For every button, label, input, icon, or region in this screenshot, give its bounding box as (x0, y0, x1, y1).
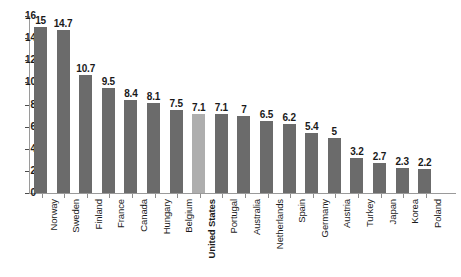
x-axis-label: Germany (318, 199, 331, 277)
x-tick-mark (268, 194, 269, 198)
bar-group[interactable]: 5.4 (301, 16, 323, 193)
bar-group[interactable]: 9.5 (98, 16, 120, 193)
bar[interactable] (192, 114, 205, 193)
x-axis-label: Finland (92, 199, 105, 277)
bar[interactable] (373, 163, 386, 193)
bar[interactable] (57, 30, 70, 193)
x-axis-label: Belgium (182, 199, 195, 277)
bar-group[interactable]: 7 (233, 16, 255, 193)
x-tick-mark (64, 194, 65, 198)
bar-group[interactable]: 15 (30, 16, 52, 193)
bar[interactable] (237, 116, 250, 193)
x-axis-label: Sweden (69, 199, 82, 277)
x-axis-label: Canada (137, 199, 150, 277)
bar-group[interactable]: 8.4 (120, 16, 142, 193)
bar-chart: 0246810121416 1514.710.79.58.48.17.57.17… (0, 0, 461, 277)
x-tick-mark (132, 194, 133, 198)
bar[interactable] (350, 158, 363, 193)
x-axis-label: Korea (408, 199, 421, 277)
x-axis-label: Austria (340, 199, 353, 277)
x-axis-label: Poland (431, 199, 444, 277)
x-axis-label: Spain (295, 199, 308, 277)
x-axis-label: Australia (250, 199, 263, 277)
y-tick-mark (25, 193, 29, 194)
x-axis-label: Turkey (363, 199, 376, 277)
x-tick-mark (109, 194, 110, 198)
bar-group[interactable]: 3.2 (346, 16, 368, 193)
x-tick-mark (155, 194, 156, 198)
bar-group[interactable]: 14.7 (53, 16, 75, 193)
bar-value-label: 2.2 (410, 157, 440, 168)
bar-value-label: 5 (319, 126, 349, 137)
bar-group[interactable]: 10.7 (75, 16, 97, 193)
x-axis-label: Japan (386, 199, 399, 277)
bar[interactable] (34, 27, 47, 193)
bar-value-label: 14.7 (48, 18, 78, 29)
plot-area: 1514.710.79.58.48.17.57.17.176.56.25.453… (29, 16, 456, 193)
x-tick-mark (426, 194, 427, 198)
bar[interactable] (260, 121, 273, 193)
bar[interactable] (418, 169, 431, 193)
bar[interactable] (328, 138, 341, 193)
bar[interactable] (102, 88, 115, 193)
bar-value-label: 9.5 (93, 76, 123, 87)
bar-value-label: 10.7 (71, 63, 101, 74)
x-axis-label: Norway (47, 199, 60, 277)
x-axis-label: Hungary (160, 199, 173, 277)
bar-group[interactable]: 5 (324, 16, 346, 193)
x-tick-mark (358, 194, 359, 198)
bar[interactable] (79, 75, 92, 193)
x-tick-mark (222, 194, 223, 198)
bar-group[interactable]: 6.5 (256, 16, 278, 193)
x-tick-mark (381, 194, 382, 198)
bar[interactable] (147, 103, 160, 193)
x-tick-mark (177, 194, 178, 198)
x-tick-mark (245, 194, 246, 198)
bar-group[interactable]: 6.2 (279, 16, 301, 193)
x-tick-mark (335, 194, 336, 198)
x-tick-mark (290, 194, 291, 198)
x-axis-label: France (114, 199, 127, 277)
bar-group[interactable]: 2.2 (414, 16, 436, 193)
bar[interactable] (396, 168, 409, 193)
x-tick-mark (42, 194, 43, 198)
x-tick-mark (313, 194, 314, 198)
x-tick-mark (200, 194, 201, 198)
x-axis-label: Netherlands (273, 199, 286, 277)
x-axis-label: Portugal (227, 199, 240, 277)
x-tick-mark (403, 194, 404, 198)
bar[interactable] (170, 110, 183, 193)
bar[interactable] (215, 114, 228, 193)
bar[interactable] (305, 133, 318, 193)
bar[interactable] (283, 124, 296, 193)
bar[interactable] (124, 100, 137, 193)
x-axis-label: United States (205, 199, 218, 277)
x-tick-mark (87, 194, 88, 198)
